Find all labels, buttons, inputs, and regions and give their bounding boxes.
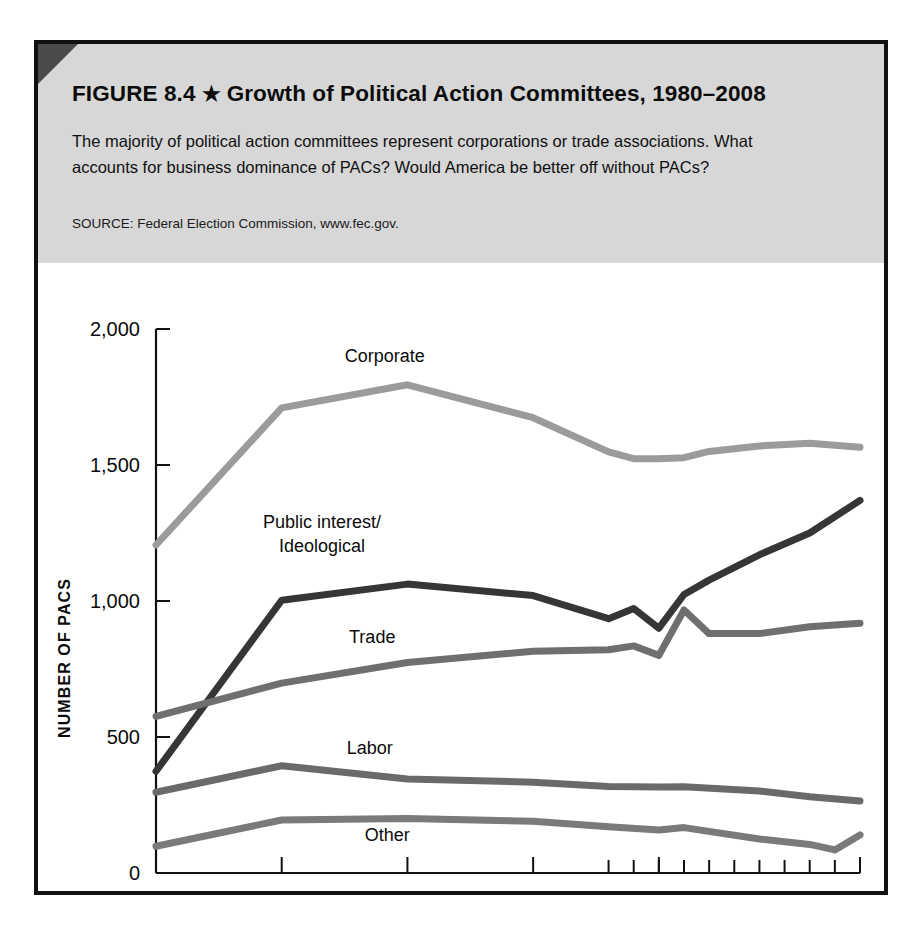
figure-source: SOURCE: Federal Election Commission, www…: [72, 216, 772, 231]
plot-area: 05001,0001,5002,000 19801985199019952000…: [38, 263, 884, 891]
figure-header-band: FIGURE 8.4★Growth of Political Action Co…: [38, 44, 884, 263]
figure-number: FIGURE 8.4: [72, 81, 196, 106]
figure-title-text: Growth of Political Action Committees, 1…: [227, 81, 766, 106]
line-chart: 05001,0001,5002,000 19801985199019952000…: [38, 263, 884, 891]
series-label-trade: Trade: [349, 627, 395, 647]
figure-title: FIGURE 8.4★Growth of Political Action Co…: [72, 81, 864, 107]
x-tick-label: 1995: [511, 888, 556, 891]
y-axis-title: NUMBER OF PACS: [56, 578, 73, 738]
figure-box: FIGURE 8.4★Growth of Political Action Co…: [34, 40, 888, 895]
x-tick-label: 1985: [259, 888, 304, 891]
star-icon: ★: [196, 82, 227, 105]
series-line-corporate: [156, 385, 860, 545]
series-label-corporate: Corporate: [345, 346, 425, 366]
x-tick-label: 1990: [385, 888, 430, 891]
corner-triangle-decoration: [38, 44, 78, 84]
figure-description: The majority of political action committ…: [72, 128, 762, 180]
series-label-public-interest: Public interest/: [263, 512, 381, 532]
x-tick-label: 2008: [838, 888, 883, 891]
series-line-other: [156, 819, 860, 850]
y-axis-ticks: 05001,0001,5002,000: [90, 318, 170, 884]
series-group: [156, 385, 860, 850]
x-tick-label: 1980: [134, 888, 179, 891]
y-tick-label: 500: [107, 726, 140, 748]
y-tick-label: 1,500: [90, 454, 140, 476]
series-line-labor: [156, 766, 860, 801]
y-tick-label: 0: [129, 862, 140, 884]
x-tick-label: 2000: [637, 888, 682, 891]
figure-page: FIGURE 8.4★Growth of Political Action Co…: [0, 0, 924, 943]
series-label-other: Other: [365, 825, 410, 845]
series-label-ideological: Ideological: [279, 536, 365, 556]
series-label-labor: Labor: [347, 738, 393, 758]
y-tick-label: 1,000: [90, 590, 140, 612]
y-tick-label: 2,000: [90, 318, 140, 340]
